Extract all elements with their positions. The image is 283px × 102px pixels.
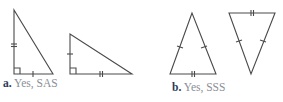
tick-single-right-side-down — [260, 40, 266, 42]
part-letter-b: b. — [172, 81, 181, 93]
answer-label-a: a. Yes, SAS — [3, 78, 58, 90]
right-angle-mark-1 — [14, 68, 20, 74]
answer-text-b: Yes, SSS — [184, 81, 226, 93]
isosceles-triangle-down — [229, 13, 275, 74]
right-angle-mark-2 — [70, 68, 76, 74]
answer-text-a: Yes, SAS — [14, 77, 58, 89]
isosceles-triangle-up — [170, 13, 216, 74]
part-letter-a: a. — [3, 77, 12, 89]
right-triangle-1 — [14, 10, 53, 74]
answer-label-b: b. Yes, SSS — [172, 82, 225, 94]
right-triangle-2 — [70, 34, 132, 74]
